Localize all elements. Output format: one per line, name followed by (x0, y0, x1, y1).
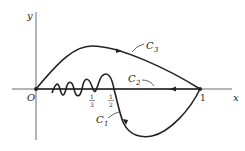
x-axis-label: x (233, 92, 239, 103)
svg-text:3: 3 (154, 46, 159, 54)
svg-text:1: 1 (104, 120, 108, 128)
label-c2: C 2 (128, 73, 154, 87)
path-diagram: y x O 1 1 3 1 2 C 3 C 2 C 1 (0, 0, 245, 151)
tick-one-third: 1 3 (89, 93, 95, 108)
svg-text:C: C (128, 73, 136, 84)
curve-c3 (36, 46, 200, 89)
c3-arrow-icon (116, 49, 122, 54)
svg-text:2: 2 (109, 101, 113, 108)
svg-text:1: 1 (90, 93, 94, 100)
origin-point (34, 87, 38, 91)
svg-text:3: 3 (90, 101, 94, 108)
svg-text:1: 1 (109, 93, 113, 100)
y-axis-label: y (26, 10, 33, 21)
svg-text:C: C (146, 40, 154, 51)
svg-text:C: C (96, 114, 104, 125)
origin-label: O (27, 92, 35, 103)
curve-c1 (52, 74, 200, 137)
label-c3: C 3 (132, 40, 159, 54)
one-label: 1 (200, 93, 206, 103)
c2-arrow-icon (170, 87, 176, 92)
label-c1: C 1 (96, 112, 119, 128)
end-point (198, 87, 202, 91)
svg-text:2: 2 (135, 79, 141, 87)
tick-one-half: 1 2 (108, 93, 114, 108)
